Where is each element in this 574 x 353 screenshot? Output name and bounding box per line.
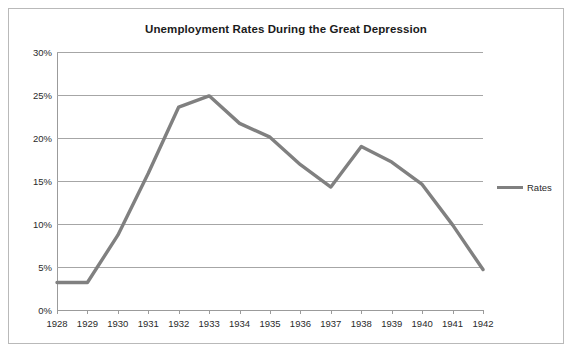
x-tick (361, 310, 362, 314)
gridline (57, 95, 483, 96)
x-tick (148, 310, 149, 314)
legend-label-rates: Rates (527, 182, 552, 193)
y-axis-labels: 30%25%20%15%10%5%0% (8, 0, 52, 353)
gridline (57, 267, 483, 268)
x-tick (392, 310, 393, 314)
legend-swatch-rates (497, 186, 523, 189)
x-tick (118, 310, 119, 314)
y-tick-label: 10% (12, 219, 52, 230)
chart-title: Unemployment Rates During the Great Depr… (9, 23, 563, 35)
x-tick (179, 310, 180, 314)
x-tick (483, 310, 484, 314)
gridline (57, 138, 483, 139)
y-tick-label: 5% (12, 262, 52, 273)
x-tick (300, 310, 301, 314)
x-tick-label: 1942 (463, 318, 503, 329)
legend: Rates (497, 182, 552, 193)
x-tick (422, 310, 423, 314)
y-tick-label: 0% (12, 305, 52, 316)
chart-screenshot: Unemployment Rates During the Great Depr… (0, 0, 574, 353)
y-tick-label: 15% (12, 176, 52, 187)
x-tick (87, 310, 88, 314)
x-tick (331, 310, 332, 314)
gridline (57, 52, 483, 53)
y-tick-label: 30% (12, 47, 52, 58)
x-tick (57, 310, 58, 314)
gridline (57, 181, 483, 182)
gridline (57, 224, 483, 225)
x-tick (453, 310, 454, 314)
x-tick (240, 310, 241, 314)
x-tick (270, 310, 271, 314)
y-tick-label: 25% (12, 90, 52, 101)
y-tick-label: 20% (12, 133, 52, 144)
plot-area (57, 52, 483, 310)
x-tick (209, 310, 210, 314)
